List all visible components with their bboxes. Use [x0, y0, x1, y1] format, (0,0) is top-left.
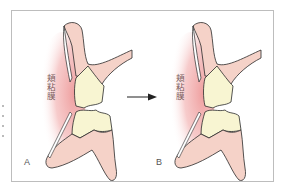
mucosa-label-a: 頬粘膜: [45, 74, 55, 101]
panel-label-a: A: [24, 157, 30, 167]
panel-b-illustration: [167, 23, 261, 181]
figure: 頬粘膜 頬粘膜 A B: [0, 0, 281, 188]
diagram-svg: [0, 0, 281, 188]
mucosa-label-b: 頬粘膜: [174, 74, 184, 101]
panel-label-b: B: [156, 157, 162, 167]
panel-a-illustration: [38, 23, 132, 181]
arrow-icon: [127, 94, 157, 101]
